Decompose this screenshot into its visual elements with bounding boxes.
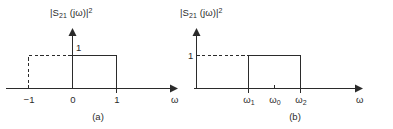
panel-b-title-prefix: |S <box>180 7 189 18</box>
panel-a-xtick-0: 0 <box>63 95 83 105</box>
panel-b-xtick-w2-sub: 2 <box>303 99 307 106</box>
panel-b-plot <box>197 0 393 129</box>
panel-b-xtick-w0-base: ω <box>269 94 276 105</box>
panel-b-title-sub: 21 <box>189 12 197 19</box>
panel-b-xlabel-omega: ω <box>356 95 363 105</box>
panel-b-xtick-w0-sub: 0 <box>277 99 281 106</box>
panel-b-xtick-w0: ω0 <box>265 95 285 106</box>
chart-panel-a: |S21 (jω)|2 1 −1 0 1 ω (a) <box>0 0 196 129</box>
panel-b-caption: (b) <box>197 112 393 122</box>
panel-a-xlabel-omega: ω <box>171 95 178 105</box>
panel-b-xtick-w1-sub: 1 <box>251 99 255 106</box>
panel-b-xtick-w2: ω2 <box>291 95 311 106</box>
panel-b-xtick-w2-base: ω <box>295 94 302 105</box>
panel-a-ytick-1: 1 <box>76 43 81 53</box>
panel-a-caption: (a) <box>0 112 196 122</box>
panel-a-xtick-1: 1 <box>107 95 127 105</box>
panel-a-plot <box>0 0 196 129</box>
panel-a-x-axis-arrow-icon <box>170 85 178 93</box>
chart-panel-b: |S21 (jω)|2 1 ω1 ω0 ω2 <box>197 0 393 129</box>
panel-b-series-passband-solid <box>249 56 301 89</box>
panel-b-xtick-w1-base: ω <box>243 94 250 105</box>
figure-container: |S21 (jω)|2 1 −1 0 1 ω (a) |S21 (jω)|2 <box>0 0 393 129</box>
panel-a-xtick-minus1: −1 <box>19 95 39 105</box>
panel-b-x-axis-arrow-icon <box>355 85 363 93</box>
panel-b-ytick-1: 1 <box>188 51 193 61</box>
panel-a-series-mirror-dashed <box>29 56 73 89</box>
panel-b-xtick-w1: ω1 <box>239 95 259 106</box>
panel-a-y-axis-arrow-icon <box>69 28 77 36</box>
panel-a-series-passband-solid <box>73 56 117 89</box>
